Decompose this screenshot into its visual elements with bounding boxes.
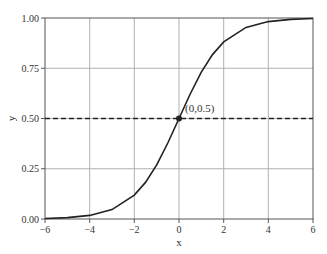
x-tick-label: −2 — [129, 224, 140, 235]
x-tick-label: 6 — [311, 224, 316, 235]
y-tick-label: 0.75 — [22, 63, 40, 74]
x-tick-label: 0 — [177, 224, 182, 235]
x-tick-label: 4 — [266, 224, 271, 235]
x-tick-label: −4 — [84, 224, 95, 235]
x-tick-label: −6 — [40, 224, 51, 235]
x-tick-labels: −6 −4 −2 0 2 4 6 — [40, 224, 316, 235]
y-tick-labels: 1.00 0.75 0.50 0.25 0.00 — [22, 13, 40, 225]
y-axis-label: y — [5, 115, 17, 121]
sigmoid-chart: (0,0.5) 1.00 0.75 0.50 0.25 0.00 −6 −4 −… — [0, 0, 327, 254]
x-tick-label: 2 — [221, 224, 226, 235]
y-tick-label: 0.25 — [22, 163, 40, 174]
y-tick-label: 0.00 — [22, 214, 40, 225]
x-axis-label: x — [176, 236, 182, 248]
y-tick-label: 1.00 — [22, 13, 40, 24]
point-marker — [176, 116, 182, 122]
point-annotation: (0,0.5) — [185, 102, 215, 115]
y-tick-label: 0.50 — [22, 113, 40, 124]
